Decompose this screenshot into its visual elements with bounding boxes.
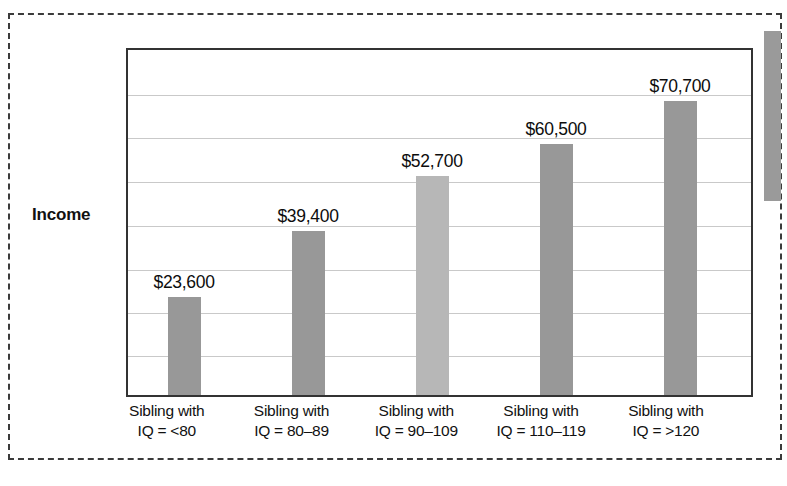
bar-value-label: $39,400 [246, 206, 371, 227]
x-axis-label-line1: Sibling with [503, 402, 578, 419]
x-axis-label-line2: IQ = 90–109 [354, 421, 479, 441]
bars-group: $23,600$39,400$52,700$60,500$70,700 [128, 50, 751, 395]
x-axis-label: Sibling withIQ = <80 [104, 401, 229, 442]
bar [292, 231, 325, 395]
bar [540, 144, 573, 395]
x-axis-label: Sibling withIQ = 110–119 [478, 401, 603, 442]
x-axis-label-line1: Sibling with [254, 402, 329, 419]
bar-value-label: $70,700 [618, 76, 743, 97]
x-axis-label: Sibling withIQ = 90–109 [354, 401, 479, 442]
bar-value-label: $52,700 [370, 151, 495, 172]
x-axis-label: Sibling withIQ = >120 [603, 401, 728, 442]
chart-figure: Income $23,600$39,400$52,700$60,500$70,7… [0, 0, 787, 486]
x-axis-label-line2: IQ = <80 [104, 421, 229, 441]
plot-area: $23,600$39,400$52,700$60,500$70,700 [126, 48, 753, 397]
bar [664, 101, 697, 395]
x-axis-label-line2: IQ = 110–119 [478, 421, 603, 441]
x-axis-label-line1: Sibling with [379, 402, 454, 419]
x-axis-label-line2: IQ = >120 [603, 421, 728, 441]
bar [416, 176, 449, 395]
x-axis-label-line1: Sibling with [628, 402, 703, 419]
x-axis-label: Sibling withIQ = 80–89 [229, 401, 354, 442]
x-axis-label-line1: Sibling with [129, 402, 204, 419]
y-axis-title: Income [32, 205, 90, 225]
bar [168, 297, 201, 395]
x-axis-category-labels: Sibling withIQ = <80Sibling withIQ = 80–… [126, 401, 753, 453]
x-axis-label-line2: IQ = 80–89 [229, 421, 354, 441]
page-edge-bar-artifact [764, 31, 781, 201]
bar-value-label: $60,500 [494, 119, 619, 140]
bar-value-label: $23,600 [122, 272, 247, 293]
